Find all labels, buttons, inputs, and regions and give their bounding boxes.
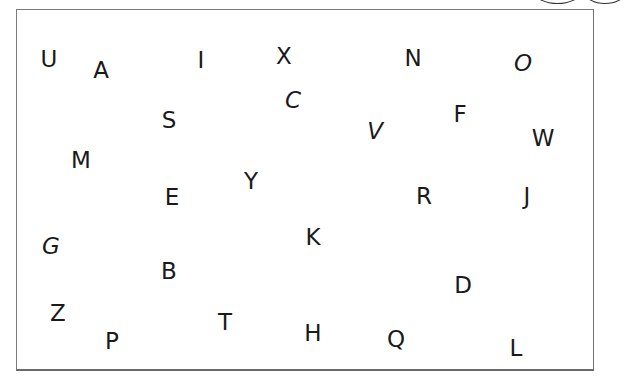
letter-d[interactable]: D <box>454 274 472 297</box>
letter-r[interactable]: R <box>416 185 432 208</box>
letter-z[interactable]: Z <box>50 302 66 325</box>
decorative-oval-right-icon <box>585 0 625 4</box>
letter-c[interactable]: C <box>285 89 301 112</box>
letter-p[interactable]: P <box>105 330 119 353</box>
letter-a[interactable]: A <box>93 59 109 82</box>
letter-g[interactable]: G <box>42 235 60 258</box>
letter-l[interactable]: L <box>510 337 523 360</box>
letter-i[interactable]: I <box>198 49 205 72</box>
letter-q[interactable]: Q <box>387 328 405 351</box>
letter-x[interactable]: X <box>276 45 292 68</box>
letter-k[interactable]: K <box>305 226 320 249</box>
letter-e[interactable]: E <box>165 186 180 209</box>
letter-f[interactable]: F <box>453 103 466 126</box>
letter-b[interactable]: B <box>161 260 177 283</box>
decorative-oval-left-icon <box>535 0 580 4</box>
letter-m[interactable]: M <box>71 149 91 172</box>
letter-w[interactable]: W <box>532 127 555 150</box>
letter-o[interactable]: O <box>514 52 532 75</box>
letter-s[interactable]: S <box>162 109 177 132</box>
letter-t[interactable]: T <box>218 311 232 334</box>
letter-h[interactable]: H <box>304 322 321 345</box>
letter-y[interactable]: Y <box>244 170 258 193</box>
letter-u[interactable]: U <box>41 48 58 71</box>
letter-v[interactable]: V <box>367 120 383 143</box>
letter-n[interactable]: N <box>404 47 421 70</box>
letter-j[interactable]: J <box>524 185 531 208</box>
